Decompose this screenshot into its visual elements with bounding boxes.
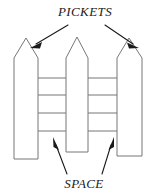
- pickets-label: PICKETS: [57, 4, 112, 19]
- arrow-to-right-picket-line: [105, 25, 133, 44]
- right-picket: [117, 38, 142, 156]
- arrow-to-right-gap-head: [109, 137, 115, 150]
- arrow-to-left-picket-line: [36, 25, 68, 44]
- left-picket: [14, 38, 38, 159]
- space-label: SPACE: [64, 176, 103, 191]
- middle-picket: [66, 37, 88, 152]
- arrow-to-left-picket-head: [30, 42, 42, 49]
- pickets-group: [14, 37, 142, 159]
- fence-diagram-canvas: PICKETS SPACE: [0, 0, 164, 196]
- top-leaders-group: [30, 25, 139, 49]
- arrow-to-left-gap-head: [53, 137, 59, 150]
- picket-fence-figure: PICKETS SPACE: [0, 0, 164, 196]
- arrow-to-left-gap-line: [56, 145, 67, 174]
